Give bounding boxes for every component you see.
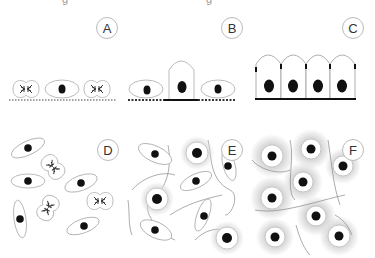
columnar-cell [169, 61, 194, 100]
panel-a [9, 80, 117, 100]
panel-label-d: D [97, 139, 119, 161]
mitotic-cell [84, 81, 110, 98]
panel-label-b: B [221, 17, 243, 39]
diagram: g g A B C D E F [0, 0, 375, 258]
cropped-text-fragment: g [206, 0, 212, 5]
panel-c [255, 55, 356, 99]
diagram-artwork [0, 0, 375, 258]
mitotic-cell [13, 81, 39, 98]
cropped-text-fragment: g [62, 0, 68, 5]
panel-label-f: F [342, 139, 364, 161]
panel-label-c: C [342, 17, 364, 39]
panel-label-a: A [96, 17, 118, 39]
nucleus [59, 85, 66, 94]
panel-b [128, 61, 236, 100]
panel-label-e: E [221, 139, 243, 161]
